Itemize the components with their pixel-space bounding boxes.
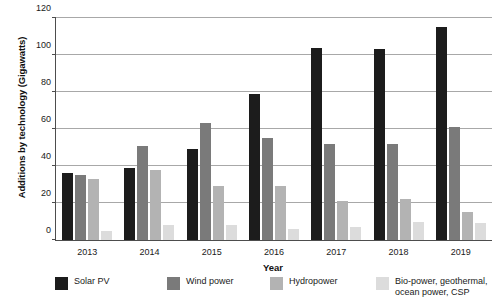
bar-group: 2017 xyxy=(305,18,367,240)
bar xyxy=(249,94,260,240)
chart-legend: Solar PVWind powerHydropowerBio-power, g… xyxy=(55,276,495,298)
bar-group: 2016 xyxy=(243,18,305,240)
bar xyxy=(137,146,148,240)
bar xyxy=(275,186,286,240)
plot-area: 020406080100120 201320142015201620172018… xyxy=(55,18,492,241)
legend-swatch-icon xyxy=(167,277,180,290)
bar-group: 2019 xyxy=(430,18,492,240)
bar xyxy=(462,212,473,240)
y-tick-label: 100 xyxy=(36,40,51,50)
y-tick-label: 20 xyxy=(41,188,51,198)
bar xyxy=(75,175,86,240)
bar-group: 2014 xyxy=(118,18,180,240)
bar xyxy=(88,179,99,240)
legend-item: Wind power xyxy=(167,276,270,290)
x-tick-label: 2017 xyxy=(326,247,346,257)
bar xyxy=(449,127,460,240)
bar xyxy=(324,144,335,240)
x-tick-label: 2014 xyxy=(139,247,159,257)
bar xyxy=(200,123,211,240)
y-tick-label: 120 xyxy=(36,3,51,13)
bar xyxy=(311,48,322,240)
bar xyxy=(226,225,237,240)
bar xyxy=(101,231,112,240)
bar xyxy=(288,229,299,240)
x-tick-label: 2019 xyxy=(451,247,471,257)
legend-label: Bio-power, geothermal,ocean power, CSP xyxy=(395,276,488,298)
bar xyxy=(262,138,273,240)
bar xyxy=(374,49,385,240)
x-tick-label: 2013 xyxy=(77,247,97,257)
x-axis-title: Year xyxy=(55,262,491,273)
legend-label: Wind power xyxy=(186,276,234,287)
y-tick-label: 80 xyxy=(41,77,51,87)
bar-chart: Additions by technology (Gigawatts) 0204… xyxy=(0,0,502,302)
bar xyxy=(400,199,411,240)
legend-swatch-icon xyxy=(376,277,389,290)
bar xyxy=(187,149,198,240)
bar xyxy=(62,173,73,240)
x-tick-label: 2016 xyxy=(264,247,284,257)
y-tick-label: 60 xyxy=(41,114,51,124)
bar xyxy=(475,223,486,240)
bar-groups: 2013201420152016201720182019 xyxy=(56,18,492,240)
bar xyxy=(213,186,224,240)
bar xyxy=(387,144,398,240)
y-axis-title: Additions by technology (Gigawatts) xyxy=(16,3,27,233)
bar xyxy=(150,170,161,240)
legend-item: Solar PV xyxy=(55,276,167,290)
x-tick-label: 2015 xyxy=(202,247,222,257)
bar xyxy=(350,227,361,240)
bar xyxy=(124,168,135,240)
y-tick-label: 0 xyxy=(46,225,51,235)
bar xyxy=(413,222,424,240)
bar-group: 2018 xyxy=(367,18,429,240)
legend-swatch-icon xyxy=(55,277,68,290)
legend-label: Hydropower xyxy=(289,276,338,287)
bar-group: 2015 xyxy=(181,18,243,240)
bar xyxy=(337,201,348,240)
legend-item: Hydropower xyxy=(270,276,376,290)
bar xyxy=(163,225,174,240)
legend-swatch-icon xyxy=(270,277,283,290)
bar-group: 2013 xyxy=(56,18,118,240)
legend-label: Solar PV xyxy=(74,276,110,287)
legend-item: Bio-power, geothermal,ocean power, CSP xyxy=(376,276,495,298)
x-tick-label: 2018 xyxy=(389,247,409,257)
y-tick-label: 40 xyxy=(41,151,51,161)
bar xyxy=(436,27,447,240)
